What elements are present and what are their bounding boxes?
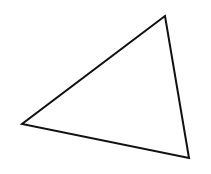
triangle-shape [22,16,189,158]
triangle-diagram [0,0,211,174]
diagram-canvas [0,0,211,174]
